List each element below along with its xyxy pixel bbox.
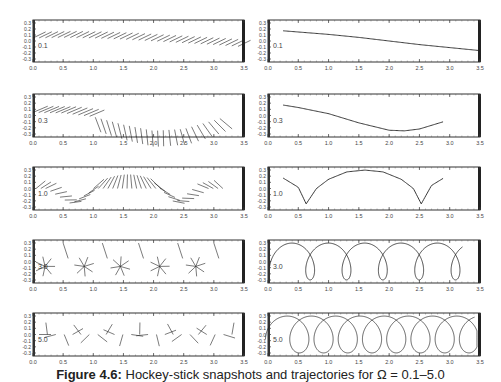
- omega-label: 1.0: [273, 190, 283, 197]
- x-tick-label: 3.5: [476, 140, 484, 146]
- stick-segment: [164, 192, 175, 197]
- stick-segment: [50, 107, 65, 113]
- x-tick-label: 3.0: [210, 65, 218, 71]
- x-tick-label: 2.0: [385, 359, 393, 365]
- stick-segment: [118, 123, 122, 139]
- y-tick-label: 0.2: [259, 173, 266, 179]
- stick-segment: [207, 38, 220, 44]
- stick-segment: [177, 201, 189, 202]
- stick-segment: [101, 119, 106, 134]
- stick-segment: [151, 266, 160, 270]
- x-tick-label: 2.5: [416, 140, 424, 146]
- y-tick-label: -0.1: [257, 338, 266, 344]
- stick-segment: [64, 335, 69, 346]
- stick-segment: [176, 36, 189, 42]
- x-tick-label: 2.5: [180, 65, 188, 71]
- stick-segment: [196, 266, 204, 272]
- panel-left-row2: 0.00.51.01.52.02.53.03.50.30.20.10.0-0.1…: [22, 94, 247, 147]
- x-tick-label: 3.5: [240, 213, 248, 219]
- omega-label: 0.1: [273, 42, 283, 49]
- x-tick-label: 1.5: [355, 140, 363, 146]
- y-tick-label: 0.0: [259, 113, 266, 119]
- x-tick-label: 1.5: [355, 213, 363, 219]
- stick-segment: [131, 175, 132, 189]
- y-tick-label: -0.1: [22, 338, 31, 344]
- x-tick-label: 0.0: [264, 286, 272, 292]
- y-tick-label: 0.1: [259, 325, 266, 331]
- y-tick-label: 0.0: [24, 332, 31, 338]
- stick-segment: [44, 106, 59, 112]
- stick-segment: [213, 38, 226, 44]
- y-tick-label: 0.0: [24, 113, 31, 119]
- x-tick-label: 0.5: [59, 359, 67, 365]
- x-tick-label: 1.0: [325, 213, 333, 219]
- y-tick-label: 0.3: [259, 94, 266, 100]
- stick-segment: [214, 180, 223, 188]
- x-tick-label: 1.0: [325, 65, 333, 71]
- omega-label: 0.1: [38, 42, 48, 49]
- y-tick-label: 0.0: [259, 259, 266, 265]
- stick-segment: [70, 31, 83, 37]
- stick-segment: [157, 35, 170, 41]
- stick-segment: [120, 335, 123, 347]
- stick-segment: [151, 35, 164, 41]
- y-tick-label: 0.1: [24, 179, 31, 185]
- x-tick-label: 2.0: [385, 213, 393, 219]
- stick-segment: [84, 266, 92, 272]
- stick-segment: [55, 192, 67, 195]
- y-tick-label: -0.2: [257, 125, 266, 131]
- stick-segment: [84, 257, 88, 266]
- panel-left-row4: 0.00.51.01.52.02.53.03.50.30.20.10.0-0.1…: [22, 240, 247, 292]
- stick-segment: [196, 257, 200, 266]
- x-tick-label: 1.0: [89, 213, 97, 219]
- x-tick-label: 1.0: [89, 65, 97, 71]
- x-tick-label: 1.0: [325, 286, 333, 292]
- stick-segment: [197, 328, 207, 334]
- stick-segment: [73, 329, 83, 335]
- y-tick-label: 0.1: [259, 179, 266, 185]
- y-tick-label: -0.2: [257, 271, 266, 277]
- trajectory-line: [270, 243, 463, 280]
- x-tick-label: 2.5: [180, 286, 188, 292]
- x-tick-label: 2.5: [180, 359, 188, 365]
- stick-segment: [196, 263, 206, 266]
- stick-segment: [117, 175, 121, 189]
- x-tick-label: 1.0: [325, 359, 333, 365]
- stick-segment: [126, 33, 139, 39]
- stick-segment: [113, 176, 118, 189]
- stick-segment: [36, 181, 45, 189]
- stick-segment: [163, 35, 176, 41]
- stick-segment: [203, 123, 212, 136]
- x-tick-label: 3.5: [240, 359, 248, 365]
- stick-segment: [129, 126, 132, 142]
- stick-segment: [107, 120, 112, 135]
- x-tick-label: 0.0: [264, 65, 272, 71]
- x-tick-label: 2.5: [180, 213, 188, 219]
- stick-segment: [39, 32, 52, 38]
- x-tick-label: 3.0: [210, 213, 218, 219]
- stick-segment: [95, 117, 101, 132]
- stick-segment: [67, 107, 82, 113]
- y-tick-label: 0.3: [24, 94, 31, 100]
- x-tick-label: 0.0: [29, 65, 37, 71]
- stick-segment: [210, 335, 215, 346]
- x-tick-label: 3.0: [446, 286, 454, 292]
- x-tick-label: 0.5: [59, 140, 67, 146]
- x-tick-label: 3.5: [476, 213, 484, 219]
- stick-segment: [139, 34, 152, 40]
- panel-left-row5: 0.00.51.01.52.02.53.03.50.30.20.10.0-0.1…: [22, 313, 247, 365]
- y-tick-label: 0.2: [259, 246, 266, 252]
- x-tick-label: 3.0: [210, 286, 218, 292]
- x-tick-label: 0.5: [59, 286, 67, 292]
- x-tick-label: 0.5: [294, 65, 302, 71]
- x-tick-label: 0.0: [264, 359, 272, 365]
- stick-segment: [95, 32, 108, 38]
- stick-segment: [81, 335, 90, 343]
- stick-segment: [160, 188, 170, 194]
- omega-label: 5.0: [273, 336, 283, 343]
- panel-left-row3: 0.00.51.01.52.02.53.03.50.30.20.10.0-0.1…: [22, 167, 247, 219]
- y-tick-label: 0.1: [259, 252, 266, 258]
- stick-segment: [169, 130, 171, 146]
- stick-segment: [111, 266, 121, 268]
- x-tick-label: 0.5: [59, 65, 67, 71]
